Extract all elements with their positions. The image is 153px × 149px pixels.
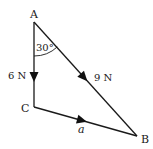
force-label-9n: 9 N [94,72,113,83]
force-triangle-diagram: A C B 30° 6 N 9 N a [0,0,153,149]
vertex-label-c: C [21,102,29,115]
force-label-6n: 6 N [8,70,27,81]
side-label-a: a [78,123,85,136]
angle-label: 30° [36,42,54,53]
arrowhead-down-icon [30,72,39,82]
vertex-label-b: B [141,133,149,146]
vertex-label-a: A [29,8,39,21]
